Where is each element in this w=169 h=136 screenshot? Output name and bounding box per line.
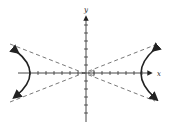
hyperbola-right-branch xyxy=(141,49,155,98)
y-axis: y xyxy=(83,6,89,122)
hyperbola-graph: x y xyxy=(0,0,169,136)
hyperbola-left-branch xyxy=(16,51,30,96)
x-axis-label: x xyxy=(157,70,161,78)
asymptote-negative-slope xyxy=(10,44,155,101)
asymptote-positive-slope xyxy=(10,45,155,102)
y-axis-label: y xyxy=(83,6,89,14)
